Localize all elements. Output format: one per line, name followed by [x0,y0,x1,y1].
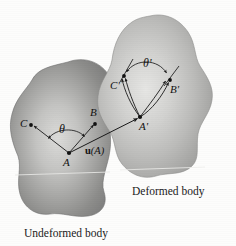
point-dot-C [29,123,33,127]
point-label-B-prime: B' [170,84,179,95]
caption-undeformed-body: Undeformed body [24,228,108,240]
point-dot-C-prime [122,74,126,78]
point-dot-A-prime [138,115,142,119]
undeformed-body-shape [10,60,112,217]
angle-label-theta-prime: θ' [143,57,152,69]
point-dot-A [67,151,71,155]
displacement-vector-label: u(A) [85,146,104,157]
point-label-B: B [90,107,97,118]
deformation-figure: A B C A' B' C' θ θ' u(A) Deformed body U… [0,0,236,246]
figure-canvas [0,0,236,246]
point-dot-B [93,122,97,126]
caption-deformed-body: Deformed body [132,186,205,198]
point-label-C-prime: C' [110,80,120,91]
point-label-A-prime: A' [139,121,148,132]
point-label-A: A [63,157,70,168]
point-dot-B-prime [168,78,172,82]
point-label-C: C [20,118,27,129]
vector-argument: (A) [91,145,104,156]
angle-label-theta: θ [59,123,65,135]
